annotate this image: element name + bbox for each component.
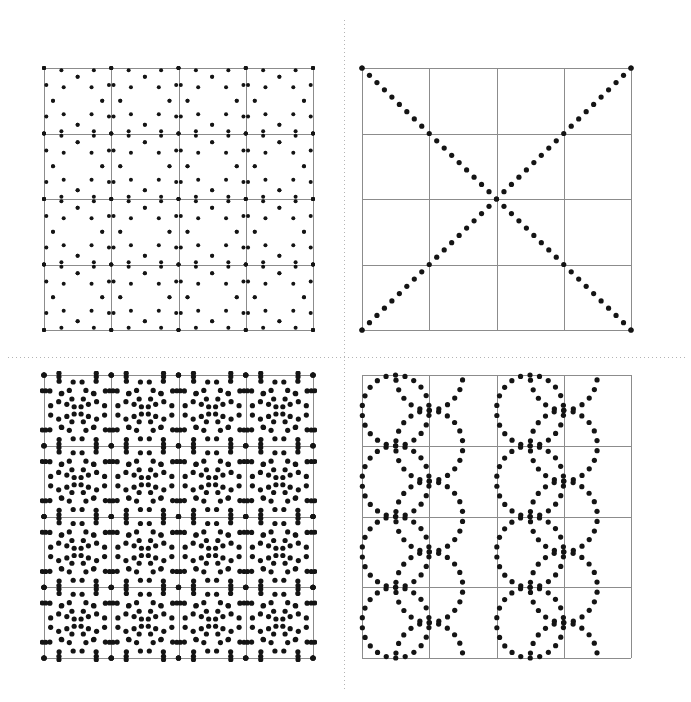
panel-top-right-hitbox <box>362 68 631 330</box>
figure-root <box>0 0 691 702</box>
panel-bottom-right-hitbox <box>362 375 631 658</box>
panel-top-left-hitbox <box>44 68 313 330</box>
panel-bottom-left-hitbox <box>44 375 313 658</box>
